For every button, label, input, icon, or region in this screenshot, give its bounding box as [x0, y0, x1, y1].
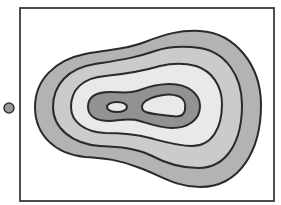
marker-dot	[4, 103, 14, 113]
peak-left	[107, 102, 127, 112]
contour-diagram	[0, 0, 281, 205]
